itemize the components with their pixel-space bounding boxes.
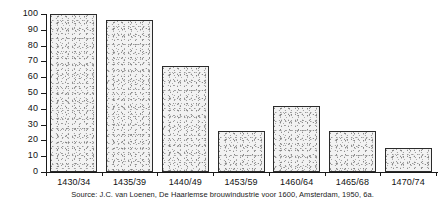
y-axis-tick [41,172,46,173]
x-axis-tick-label: 1470/74 [380,177,436,187]
y-axis-tick-label: 0 [12,167,38,176]
y-axis-tick [41,109,46,110]
y-axis-tick [41,93,46,94]
y-axis-tick [41,156,46,157]
x-axis-tick-label: 1435/39 [102,177,158,187]
y-axis-tick-label: 40 [12,104,38,113]
x-axis-tick [102,172,103,176]
bar [385,148,432,172]
x-axis-tick [46,172,47,176]
x-axis-tick-label: 1430/34 [46,177,102,187]
bar [273,106,320,172]
y-axis-tick [41,61,46,62]
bar-chart-figure: 0102030405060708090100 1430/341435/39144… [0,0,445,205]
y-axis-tick-label: 70 [12,56,38,65]
y-axis-tick-label: 90 [12,25,38,34]
x-axis-tick-label: 1453/59 [213,177,269,187]
bar [218,131,265,172]
y-axis-labels: 0102030405060708090100 [8,0,38,205]
y-axis-tick-label: 80 [12,41,38,50]
bar [329,131,376,172]
x-axis-tick [325,172,326,176]
y-axis-tick [41,30,46,31]
x-axis-tick [157,172,158,176]
y-axis-tick-label: 30 [12,120,38,129]
source-caption: Source: J.C. van Loenen, De Haarlemse br… [0,190,445,200]
y-axis-tick-label: 60 [12,72,38,81]
bar [106,20,153,172]
x-axis-tick [213,172,214,176]
x-axis-tick-label: 1440/49 [157,177,213,187]
x-axis-line [46,172,438,173]
x-axis-tick-label: 1465/68 [325,177,381,187]
x-axis-tick-label: 1460/64 [269,177,325,187]
x-axis-tick [380,172,381,176]
y-axis-tick [41,77,46,78]
x-axis-tick [436,172,437,176]
y-axis-tick-label: 50 [12,88,38,97]
plot-area [46,14,436,172]
bars-container [46,14,436,172]
y-axis-tick [41,140,46,141]
x-axis-tick [269,172,270,176]
bar [162,66,209,172]
bar [50,14,97,172]
y-axis-tick [41,14,46,15]
y-axis-tick-label: 100 [12,9,38,18]
y-axis-tick [41,125,46,126]
y-axis-tick-label: 10 [12,151,38,160]
y-axis-tick [41,46,46,47]
y-axis-tick-label: 20 [12,135,38,144]
